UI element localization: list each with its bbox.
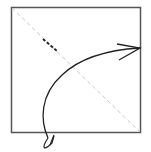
origami-diagram (0, 0, 151, 152)
paper-square (12, 8, 141, 133)
